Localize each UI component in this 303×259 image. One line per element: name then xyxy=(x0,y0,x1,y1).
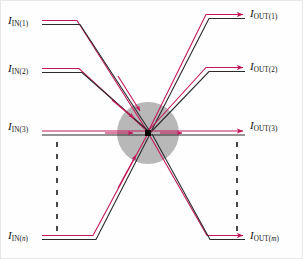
label-output-2: IOUT(2) xyxy=(250,61,277,74)
label-output-1: IOUT(1) xyxy=(250,8,277,21)
output-m-sub: OUT xyxy=(254,235,269,243)
output-1-index-close: ) xyxy=(275,13,278,21)
label-output-3: IOUT(3) xyxy=(250,120,277,133)
label-input-2: IIN(2) xyxy=(8,63,28,76)
output-m-index-close: ) xyxy=(276,235,279,243)
figure-canvas: IIN(1) IIN(2) IIN(3) IIN(n) IOUT(1) IOUT… xyxy=(0,0,303,259)
input-n-index-close: ) xyxy=(26,235,29,243)
output-1-sub: OUT xyxy=(254,13,269,21)
summing-node-marker xyxy=(145,130,151,136)
label-input-1: IIN(1) xyxy=(8,15,28,28)
output-3-index-close: ) xyxy=(275,125,278,133)
label-input-n: IIN(n) xyxy=(8,230,28,243)
label-output-m: IOUT(m) xyxy=(250,230,279,243)
input-2-index-close: ) xyxy=(26,68,29,76)
input-1-index-close: ) xyxy=(26,20,29,28)
input-3-index-close: ) xyxy=(26,126,29,134)
output-3-sub: OUT xyxy=(254,125,269,133)
output-2-sub: OUT xyxy=(254,66,269,74)
output-2-index-close: ) xyxy=(275,66,278,74)
label-input-3: IIN(3) xyxy=(8,121,28,134)
